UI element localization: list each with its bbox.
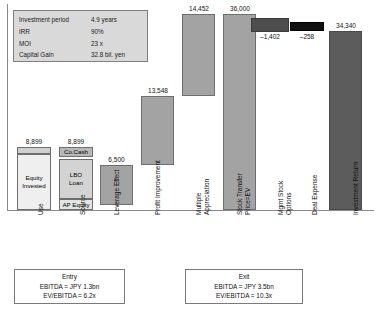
segment-lbo-loan: LBO Loan (59, 159, 93, 199)
segment-co-cash: Co.Cash (59, 147, 93, 157)
segment-mgmt-stock-options (251, 18, 289, 32)
value-label-source: 8,899 (59, 138, 93, 146)
exit-ev-ebitda: EV/EBITDA = 10.3x (186, 291, 302, 301)
segment-use-top-cap (17, 147, 51, 154)
category-label-leverage-effect: Leverage Effect (113, 157, 121, 215)
bar-deal-expense (290, 22, 324, 31)
segment-equity-invested: Equity Invested (17, 154, 51, 210)
segment-label-co-cash: Co.Cash (64, 148, 88, 156)
category-label-text: Leverage Effect (113, 170, 120, 215)
category-label-investment-return: Investment Return (352, 157, 360, 215)
category-label-text: Deal Expense (311, 175, 318, 215)
bar-use: Equity Invested (17, 147, 51, 210)
segment-label-lbo-loan: LBO Loan (69, 171, 83, 186)
value-label-use: 8,899 (17, 138, 51, 146)
segment-ap-equity: AP Equity (59, 199, 93, 210)
exit-ebitda: EBITDA = JPY 3.5bn (186, 282, 302, 292)
value-label-multiple-appreciation: 14,452 (179, 5, 219, 13)
value-label-deal-expense: –258 (288, 33, 326, 41)
entry-ebitda: EBITDA = JPY 1.3bn (15, 282, 124, 292)
category-label-text: Multiple Appreciation (195, 179, 210, 215)
bar-source: Co.Cash LBO Loan AP Equity (59, 147, 93, 210)
segment-profit-improvement (141, 96, 174, 165)
value-label-investment-return: 34,340 (326, 22, 366, 30)
bar-profit-improvement (141, 96, 174, 165)
category-label-text: Profit Improvement (154, 160, 161, 215)
bar-multiple-appreciation (182, 14, 215, 96)
category-label-text: Mgmt Stock Options (277, 181, 292, 215)
entry-ev-ebitda: EV/EBITDA = 6.2x (15, 291, 124, 301)
bar-mgmt-stock-options (251, 18, 289, 32)
category-label-source: Source (79, 194, 87, 215)
category-label-text: Investment Return (352, 162, 359, 215)
category-label-mgmt-stock-options: Mgmt Stock Options (277, 157, 292, 215)
category-label-stock-transfer-price: Stock Transfer Price=EV (236, 157, 251, 215)
value-label-profit-improvement: 13,548 (138, 87, 178, 95)
category-label-text: Stock Transfer Price=EV (236, 173, 251, 215)
entry-annotation-box: Entry EBITDA = JPY 1.3bn EV/EBITDA = 6.2… (14, 269, 125, 304)
exit-annotation-box: Exit EBITDA = JPY 3.5bn EV/EBITDA = 10.3… (185, 269, 303, 304)
entry-title: Entry (15, 272, 124, 282)
bars-layer: Equity Invested 8,899 Co.Cash LBO Loan A… (0, 0, 382, 311)
segment-multiple-appreciation (182, 14, 215, 96)
category-label-profit-improvement: Profit Improvement (154, 157, 162, 215)
category-label-multiple-appreciation: Multiple Appreciation (195, 157, 210, 215)
segment-deal-expense (290, 22, 324, 31)
exit-title: Exit (186, 272, 302, 282)
waterfall-chart: Investment period 4.9 years IRR 90% MOI … (0, 0, 382, 311)
category-label-use: Use (37, 203, 45, 215)
value-label-stock-transfer-price: 36,000 (220, 5, 260, 13)
value-label-mgmt-stock-options: –1,402 (250, 33, 290, 41)
category-label-deal-expense: Deal Expense (311, 157, 319, 215)
segment-label-equity-invested: Equity Invested (22, 174, 45, 189)
